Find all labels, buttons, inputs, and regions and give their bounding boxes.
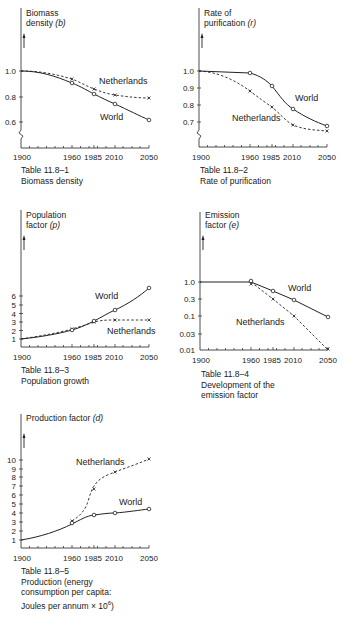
x-tick-label: 2010 (105, 353, 123, 362)
caption-table-number: Table 11.8–4 (201, 369, 249, 379)
legend-world: World (95, 291, 118, 301)
y-tick-label: 1.0 (5, 67, 17, 76)
x-tick-label: 2010 (283, 153, 301, 162)
chart-population-factor: Population factor (p) 1 2 3 4 5 6 1900 1… (0, 200, 173, 410)
y-tick-label: 6 (12, 491, 17, 500)
x-tick-label: 2010 (105, 153, 123, 162)
x-tick-label: 2050 (319, 356, 337, 365)
caption-title: Production (energy (21, 577, 93, 587)
y-tick-label: 4 (12, 509, 17, 518)
series-netherlands-line (72, 459, 149, 521)
y-tick-label: 4 (12, 310, 17, 319)
caption-title: Population growth (21, 376, 89, 386)
x-tick-label: 1960 (63, 554, 81, 563)
caption-table-number: Table 11.8–3 (21, 365, 69, 375)
x-tick-label: 1900 (192, 356, 210, 365)
y-tick-label: 2 (12, 327, 17, 336)
caption-title: Rate of purification (200, 176, 271, 186)
y-tick-label: 0.7 (183, 118, 195, 127)
y-tick-label: 3 (12, 518, 17, 527)
figure-caption: Table 11.8–1 Biomass density (21, 165, 83, 186)
y-tick-label: 0.01 (179, 346, 195, 355)
x-tick-label: 1960 (241, 153, 259, 162)
caption-title: Development of the (201, 380, 275, 390)
y-tick-label: 10 (7, 456, 16, 465)
legend-netherlands: Netherlands (236, 317, 285, 327)
y-tick-label: 0.9 (183, 84, 195, 93)
y-tick-label: 1 (12, 335, 17, 344)
series-world-line (21, 509, 149, 540)
legend-world: World (295, 93, 318, 103)
caption-table-number: Table 11.8–1 (21, 165, 69, 175)
x-tick-label: 1985 (84, 153, 102, 162)
y-tick-label: 3 (12, 318, 17, 327)
chart-emission-factor: Emission factor (e) 1.0 0.3 0.1 0.03 0.0… (173, 200, 346, 410)
x-tick-label: 2050 (318, 153, 336, 162)
legend-netherlands: Netherlands (99, 76, 148, 86)
x-tick-label: 1960 (242, 356, 260, 365)
y-tick-label: 7 (12, 482, 17, 491)
legend-netherlands: Netherlands (232, 113, 281, 123)
legend-world: World (288, 283, 311, 293)
x-tick-label: 1960 (63, 153, 81, 162)
figure-caption: Table 11.8–2 Rate of purification (200, 165, 271, 186)
x-tick-label: 1900 (192, 153, 210, 162)
x-tick-label: 2050 (140, 554, 158, 563)
figure-caption: Table 11.8–4 Development of the emission… (201, 369, 275, 401)
up-arrow-icon (23, 433, 26, 448)
x-tick-label: 1985 (84, 554, 102, 563)
x-tick-label: 1900 (13, 153, 31, 162)
caption-table-number: Table 11.8–2 (200, 165, 248, 175)
caption-title: Biomass density (21, 176, 83, 186)
x-tick-label: 1900 (13, 353, 31, 362)
y-tick-label: 0.6 (5, 118, 17, 127)
y-tick-label: 0.8 (183, 101, 195, 110)
y-tick-label: 1.0 (184, 278, 196, 287)
x-tick-label: 1900 (13, 554, 31, 563)
y-tick-label: 6 (12, 292, 17, 301)
y-tick-label: 0.1 (184, 312, 196, 321)
y-tick-label: 2 (12, 527, 17, 536)
legend-world: World (119, 497, 142, 507)
caption-close-paren: ) (111, 600, 114, 610)
up-arrow-icon (23, 33, 26, 48)
caption-units: Joules per annum × 10 (21, 600, 108, 610)
y-tick-label: 1 (12, 536, 17, 545)
x-tick-label: 2010 (284, 356, 302, 365)
caption-title-continued: consumption per capita: (21, 587, 111, 597)
y-tick-label: 1.0 (183, 67, 195, 76)
chart-production-factor: Production factor (d) 1 2 3 4 5 6 7 (0, 410, 173, 619)
figure-caption: Table 11.8–5 Production (energy consumpt… (21, 566, 114, 611)
chart-rate-of-purification: Rate of purification (r) 1.0 0.9 0.8 0.7… (173, 0, 346, 200)
x-tick-label: 1985 (263, 356, 281, 365)
x-tick-label: 1985 (84, 353, 102, 362)
x-tick-label: 1960 (63, 353, 81, 362)
x-tick-label: 1985 (262, 153, 280, 162)
legend-world: World (100, 112, 123, 122)
y-tick-label: 9 (12, 465, 17, 474)
y-tick-label: 8 (12, 473, 17, 482)
x-tick-label: 2050 (140, 153, 158, 162)
x-tick-label: 2010 (105, 554, 123, 563)
y-tick-label: 5 (12, 301, 17, 310)
y-tick-label: 0.3 (184, 295, 196, 304)
caption-table-number: Table 11.8–5 (21, 566, 69, 576)
y-tick-label: 5 (12, 500, 17, 509)
up-arrow-icon (202, 235, 205, 250)
y-tick-label: 0.8 (5, 93, 17, 102)
chart-biomass-density: Biomass density (b) 1.0 0.8 0.6 1900 1 (0, 0, 173, 200)
up-arrow-icon (23, 235, 26, 250)
legend-netherlands: Netherlands (107, 326, 156, 336)
legend-netherlands: Netherlands (76, 457, 125, 467)
caption-title-continued: emission factor (201, 390, 258, 400)
up-arrow-icon (201, 33, 204, 48)
x-tick-label: 2050 (140, 353, 158, 362)
figure-caption: Table 11.8–3 Population growth (21, 365, 89, 386)
y-tick-label: 0.03 (179, 330, 195, 339)
